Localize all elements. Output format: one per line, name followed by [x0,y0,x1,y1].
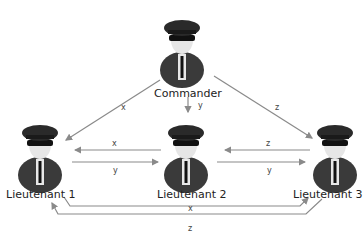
lt1-label: Lieutenant 1 [6,188,76,201]
edge-label: z [275,103,279,112]
edge-label: x [121,103,126,112]
lt3-label: Lieutenant 3 [293,188,363,201]
lt2-figure [164,125,208,193]
edge-label: y [198,101,203,110]
lt1-figure [18,125,62,193]
diagram-canvas [0,0,364,241]
edge-label: z [188,224,192,233]
edge-label: x [112,139,117,148]
edge-label: y [113,166,118,175]
lt2-label: Lieutenant 2 [157,188,227,201]
lt3-figure [313,125,357,193]
edge-label: z [266,139,270,148]
commander-figure [160,20,204,88]
edge-label: x [188,204,193,213]
edge-label: y [267,166,272,175]
commander-label: Commander [154,87,222,100]
